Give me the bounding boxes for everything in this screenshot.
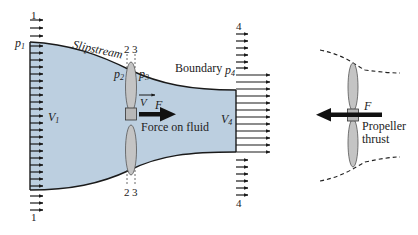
outlet-ambient-arrows <box>236 34 248 195</box>
propeller-hub <box>126 108 137 120</box>
streamline-top-dashed <box>320 50 400 73</box>
p3-label: p3 <box>138 67 149 82</box>
propeller-thrust-label-1: Propeller <box>362 119 406 133</box>
thrust-propeller-blade-top <box>348 63 358 111</box>
p4-label: p4 <box>224 63 235 78</box>
propeller-thrust-figure: F Propeller thrust <box>316 50 406 181</box>
p1-label: p1 <box>14 36 25 51</box>
thrust-arrow-head <box>316 108 331 122</box>
station-1-bottom-label: 1 <box>31 211 37 223</box>
streamline-bottom-dashed <box>320 157 400 181</box>
thrust-arrow-shaft <box>330 113 382 118</box>
station-4-bottom-label: 4 <box>236 197 242 209</box>
propeller-slipstream-diagram: 1 1 2 3 2 3 4 4 p1 p2 p3 p4 V1 V4 V Slip… <box>0 0 418 235</box>
propeller-thrust-label-2: thrust <box>362 132 390 146</box>
propeller-blade-bottom <box>126 125 137 175</box>
station-2-bottom-label: 2 <box>124 186 130 198</box>
force-f-label: F <box>154 98 163 112</box>
station-3-top-label: 3 <box>132 43 138 55</box>
station-3-bottom-label: 3 <box>132 186 138 198</box>
thrust-propeller-blade-bottom <box>348 119 358 167</box>
station-4-top-label: 4 <box>236 20 242 32</box>
propeller-blade-top <box>126 62 137 112</box>
station-1-top-label: 1 <box>31 9 37 21</box>
station-2-top-label: 2 <box>124 43 130 55</box>
outlet-slipstream-arrows <box>236 75 270 152</box>
propeller-in-stream <box>126 62 137 175</box>
force-on-fluid-label: Force on fluid <box>141 120 209 134</box>
thrust-f-label: F <box>363 99 372 113</box>
boundary-label: Boundary <box>175 61 222 75</box>
